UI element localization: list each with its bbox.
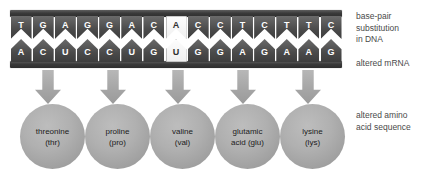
label-altered-amino-acid-sequence: altered amino acid sequence (356, 110, 411, 133)
dna-base: T (232, 16, 253, 39)
amino-acid-name: glutamic (233, 126, 263, 137)
dna-base: C (254, 16, 275, 39)
base-pair: GC (33, 16, 54, 62)
dna-base: G (33, 16, 54, 39)
dna-base: C (321, 16, 342, 39)
base-pair-row: TAGCAUGCGCAUCGAUCGCGTACGTATACG (10, 16, 342, 62)
arrow-to-valine-icon (165, 70, 191, 104)
amino-acid-circle-valine: valine(val) (150, 104, 215, 169)
dna-base: G (77, 16, 98, 39)
amino-acid-abbreviation: (thr) (45, 137, 60, 148)
arrow-to-glutamic-acid-icon (230, 70, 256, 104)
base-pair: GC (99, 16, 120, 62)
label-altered-mrna: altered mRNA (356, 58, 409, 70)
amino-acid-name: proline (105, 126, 129, 137)
mrna-base: G (321, 39, 342, 62)
base-pair-substituted: AU (166, 16, 187, 62)
base-pair: TA (276, 16, 297, 62)
base-pair: CG (143, 16, 164, 62)
mrna-base: G (254, 39, 275, 62)
amino-acid-name: lysine (302, 126, 322, 137)
base-pair-substitution-diagram: TAGCAUGCGCAUCGAUCGCGTACGTATACG threonine… (0, 0, 446, 175)
mrna-base: C (99, 39, 120, 62)
dna-base: T (298, 16, 319, 39)
base-pair: AU (55, 16, 76, 62)
mrna-base: G (210, 39, 231, 62)
amino-acid-abbreviation: (lys) (305, 137, 320, 148)
amino-acid-circle-proline: proline(pro) (85, 104, 150, 169)
base-pair: CG (210, 16, 231, 62)
amino-acid-circle-lysine: lysine(lys) (280, 104, 345, 169)
mrna-base: A (232, 39, 253, 62)
mrna-base: U (55, 39, 76, 62)
amino-acid-abbreviation: acid (glu) (231, 137, 264, 148)
amino-acid-circle-glutamic: glutamicacid (glu) (215, 104, 280, 169)
amino-acid-circle-threonine: threonine(thr) (20, 104, 85, 169)
dna-base: C (143, 16, 164, 39)
base-pair: CG (188, 16, 209, 62)
dna-base: T (11, 16, 32, 39)
mrna-base: U (166, 39, 187, 62)
mrna-base: C (77, 39, 98, 62)
base-pair: TA (11, 16, 32, 62)
dna-base: C (188, 16, 209, 39)
base-pair: CG (254, 16, 275, 62)
dna-base: T (276, 16, 297, 39)
dna-base: A (121, 16, 142, 39)
amino-acid-name: threonine (36, 126, 69, 137)
amino-acid-abbreviation: (pro) (109, 137, 126, 148)
mrna-backbone (10, 61, 342, 68)
amino-acid-name: valine (172, 126, 193, 137)
amino-acid-abbreviation: (val) (175, 137, 191, 148)
dna-base: G (99, 16, 120, 39)
dna-mrna-strand: TAGCAUGCGCAUCGAUCGCGTACGTATACG (10, 10, 342, 68)
arrow-to-lysine-icon (295, 70, 321, 104)
mrna-base: A (298, 39, 319, 62)
mrna-base: G (188, 39, 209, 62)
dna-base: A (166, 16, 187, 39)
mrna-base: U (121, 39, 142, 62)
mrna-base: A (11, 39, 32, 62)
base-pair: CG (321, 16, 342, 62)
arrow-to-proline-icon (100, 70, 126, 104)
dna-base: C (210, 16, 231, 39)
mrna-base: A (276, 39, 297, 62)
base-pair: TA (232, 16, 253, 62)
base-pair: GC (77, 16, 98, 62)
label-base-pair-substitution-in-dna: base-pair substitution in DNA (356, 11, 399, 46)
arrow-to-threonine-icon (35, 70, 61, 104)
base-pair: AU (121, 16, 142, 62)
base-pair: TA (298, 16, 319, 62)
dna-base: A (55, 16, 76, 39)
mrna-base: C (33, 39, 54, 62)
mrna-base: G (143, 39, 164, 62)
